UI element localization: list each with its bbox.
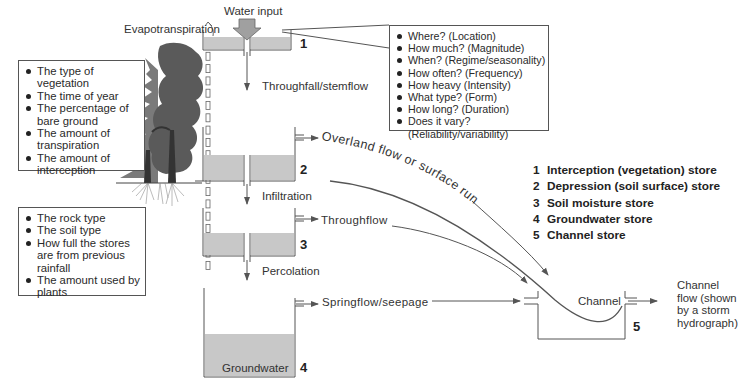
springflow-label: Springflow/seepage: [322, 296, 428, 308]
list-item: The amount of transpiration: [37, 127, 144, 152]
store-3-soil-moisture: [203, 208, 304, 262]
store-number-3: 3: [300, 237, 307, 252]
list-item: The type of vegetation: [37, 65, 144, 90]
groundwater-label: Groundwater: [222, 362, 289, 374]
legend-number: 3: [533, 195, 547, 211]
list-item: How long? (Duration): [408, 103, 546, 115]
channel-label: Channel: [578, 295, 621, 307]
evapotranspiration-segment: [206, 138, 210, 146]
evapotranspiration-label: Evapotranspiration: [124, 23, 220, 35]
evapotranspiration-segment: [206, 225, 210, 233]
water-input-arrow-icon: [233, 19, 261, 40]
evapotranspiration-segment: [206, 65, 210, 73]
legend-item: 1Interception (vegetation) store: [533, 162, 720, 178]
channel-flow-line: Channel: [677, 279, 738, 292]
list-item: The amount used by plants: [37, 274, 145, 299]
list-item: Where? (Location): [408, 30, 546, 42]
list-item: The rock type: [37, 212, 145, 224]
water-input-label: Water input: [224, 5, 283, 17]
infiltration-label: Infiltration: [262, 190, 312, 202]
channel-flow-label: Channelflow (shownby a stormhydrograph): [677, 279, 738, 329]
store-number-1: 1: [300, 36, 307, 51]
throughflow-label: Throughflow: [321, 214, 388, 226]
legend-label: Soil moisture store: [547, 196, 654, 210]
evapotranspiration-segment: [206, 52, 210, 60]
legend-number: 2: [533, 178, 547, 194]
store-number-5: 5: [633, 319, 640, 334]
legend-label: Depression (soil surface) store: [547, 179, 720, 193]
store-number-2: 2: [300, 162, 307, 177]
store-number-4: 4: [300, 360, 308, 375]
channel-flow-line: flow (shown: [677, 292, 738, 305]
channel-flow-line: by a storm: [677, 304, 738, 317]
evapotranspiration-segment: [206, 126, 210, 134]
callout-connector-bottom: [282, 32, 389, 48]
legend-item: 2Depression (soil surface) store: [533, 178, 720, 194]
throughflow-curve: [392, 226, 527, 283]
vegetation-factors-box: The type of vegetationThe time of yearTh…: [18, 60, 145, 171]
list-item: How heavy (Intensity): [408, 79, 546, 91]
legend-label: Interception (vegetation) store: [547, 163, 717, 177]
store-2-depression: [203, 127, 304, 186]
legend-item: 4Groundwater store: [533, 211, 720, 227]
evapotranspiration-segment: [206, 261, 210, 269]
legend-item: 5Channel store: [533, 227, 720, 243]
list-item: How often? (Frequency): [408, 67, 546, 79]
legend-label: Groundwater store: [547, 212, 653, 226]
evapotranspiration-segment: [206, 200, 210, 208]
evapotranspiration-segment: [206, 89, 210, 97]
list-item: How full the stores are from previous ra…: [37, 237, 145, 274]
evapotranspiration-segment: [206, 77, 210, 85]
soil-factors-box: The rock typeThe soil typeHow full the s…: [18, 207, 146, 296]
evapotranspiration-segment: [206, 188, 210, 196]
throughfall-label: Throughfall/stemflow: [262, 80, 369, 92]
list-item: Does it vary? (Reliability/variability): [408, 115, 546, 139]
list-item: When? (Regime/seasonality): [408, 54, 546, 66]
store-legend: 1Interception (vegetation) store2Depress…: [533, 162, 720, 243]
list-item: What type? (Form): [408, 91, 546, 103]
percolation-label: Percolation: [262, 265, 320, 277]
legend-number: 5: [533, 227, 547, 243]
evapotranspiration-segment: [206, 212, 210, 220]
channel-flow-line: hydrograph): [677, 317, 738, 330]
list-item: The amount of interception: [37, 152, 144, 177]
list-item: The percentage of bare ground: [37, 102, 144, 127]
callout-connector-top: [282, 25, 389, 30]
legend-number: 1: [533, 162, 547, 178]
water-input-factors-box: Where? (Location)How much? (Magnitude)Wh…: [389, 25, 549, 131]
evapotranspiration-segment: [206, 102, 210, 110]
list-item: How much? (Magnitude): [408, 42, 546, 54]
list-item: The soil type: [37, 224, 145, 236]
legend-item: 3Soil moisture store: [533, 195, 720, 211]
evapotranspiration-segment: [206, 114, 210, 122]
legend-label: Channel store: [547, 228, 626, 242]
list-item: The time of year: [37, 90, 144, 102]
legend-number: 4: [533, 211, 547, 227]
